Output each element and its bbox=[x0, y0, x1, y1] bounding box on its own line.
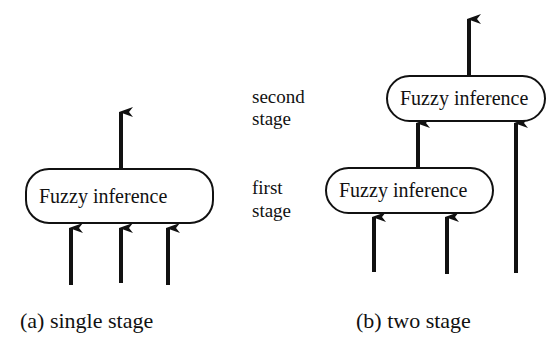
second-stage-label-line1: second bbox=[252, 86, 305, 108]
lower-fuzzy-inference-box: Fuzzy inference bbox=[325, 167, 494, 214]
two-stage-arrows bbox=[374, 19, 516, 274]
caption-single-stage: (a) single stage bbox=[20, 308, 153, 334]
single-fuzzy-inference-box: Fuzzy inference bbox=[25, 168, 214, 224]
second-stage-label-line2: stage bbox=[252, 108, 291, 130]
first-stage-label-line1: first bbox=[252, 177, 283, 199]
lower-box-label: Fuzzy inference bbox=[327, 179, 467, 202]
first-stage-label-line2: stage bbox=[252, 200, 291, 222]
single-box-label: Fuzzy inference bbox=[27, 185, 167, 208]
upper-box-label: Fuzzy inference bbox=[388, 87, 528, 110]
upper-fuzzy-inference-box: Fuzzy inference bbox=[386, 75, 546, 122]
caption-two-stage: (b) two stage bbox=[356, 308, 471, 334]
